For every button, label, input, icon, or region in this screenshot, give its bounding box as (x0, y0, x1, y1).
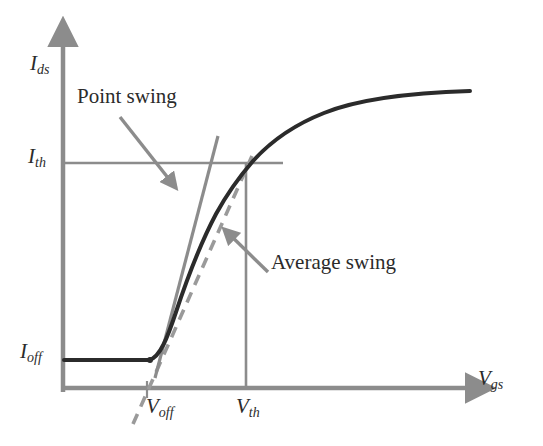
average-swing-line (133, 156, 252, 424)
x-axis-label-base: V (478, 366, 491, 390)
x-tick-voff-sub: off (159, 405, 174, 420)
y-axis-label-sub: ds (37, 62, 49, 77)
voff-knee-point (147, 357, 153, 363)
transfer-characteristic-figure (0, 0, 543, 446)
x-axis-label-sub: gs (491, 377, 503, 392)
transfer-curve (149, 91, 470, 360)
x-tick-voff-base: V (146, 394, 159, 418)
y-tick-label-ith: Ith (28, 146, 46, 167)
y-tick-ith-base: I (28, 144, 35, 168)
x-tick-vth-base: V (236, 394, 249, 418)
x-tick-label-voff: Voff (146, 396, 174, 417)
y-tick-ioff-base: I (20, 339, 27, 363)
point-swing-arrow (120, 117, 176, 188)
y-axis-label-base: I (30, 51, 37, 75)
y-tick-label-ioff: Ioff (20, 341, 42, 362)
average-swing-annotation-text: Average swing (271, 252, 396, 273)
x-tick-label-vth: Vth (236, 396, 260, 417)
y-tick-ith-sub: th (35, 155, 46, 170)
x-tick-vth-sub: th (249, 405, 260, 420)
x-axis-label: Vgs (478, 368, 503, 389)
y-axis-label: Ids (30, 53, 49, 74)
y-tick-ioff-sub: off (27, 350, 42, 365)
point-swing-annotation-text: Point swing (77, 86, 177, 107)
